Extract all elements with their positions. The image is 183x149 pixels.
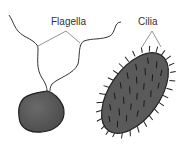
flagella-label-pointer bbox=[38, 31, 80, 46]
cilia-label-pointer bbox=[142, 31, 161, 47]
ciliated-cell bbox=[80, 31, 183, 149]
flagellum-right bbox=[50, 22, 121, 91]
flagella-label: Flagella bbox=[51, 17, 86, 27]
ciliated-cell-body bbox=[88, 41, 182, 145]
diagram-canvas: Flagella Cilia bbox=[0, 0, 183, 149]
cilia-label: Cilia bbox=[138, 17, 157, 27]
cell-body bbox=[19, 91, 64, 132]
flagellum-left bbox=[9, 15, 47, 91]
